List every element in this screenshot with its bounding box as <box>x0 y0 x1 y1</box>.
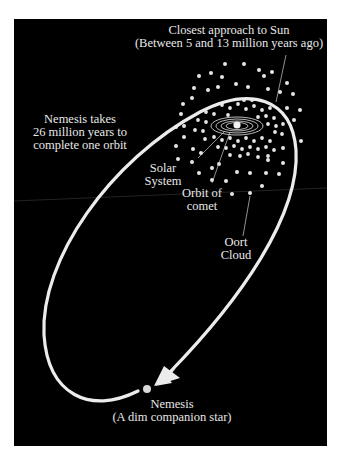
sun-icon <box>233 121 240 128</box>
oort-cloud-label: Oort Cloud <box>216 236 256 262</box>
oort-cloud-line2: Cloud <box>216 249 256 262</box>
comet-orbit-line2: comet <box>172 200 232 213</box>
nemesis-line2: (A dim companion star) <box>110 411 234 424</box>
oort-cloud-stars <box>174 62 303 196</box>
inner-cloud-stars <box>193 102 285 159</box>
orbit-period-label: Nemesis takes 26 million years to comple… <box>22 113 138 152</box>
scan-artifact-line <box>14 188 327 201</box>
nemesis-star-icon <box>143 385 151 393</box>
closest-approach-line2: (Between 5 and 13 million years ago) <box>131 37 327 50</box>
closest-approach-label: Closest approach to Sun (Between 5 and 1… <box>131 24 327 50</box>
nemesis-orbit-diagram <box>0 0 341 463</box>
solar-system-label: Solar System <box>138 162 188 188</box>
nemesis-label: Nemesis (A dim companion star) <box>110 398 234 424</box>
comet-orbit-label: Orbit of comet <box>172 187 232 213</box>
orbit-period-line3: complete one orbit <box>22 139 138 152</box>
